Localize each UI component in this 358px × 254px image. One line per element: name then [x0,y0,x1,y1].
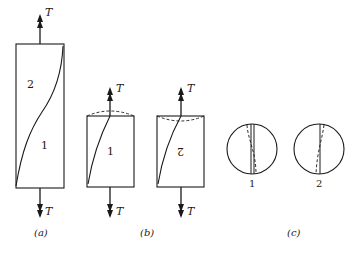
region-label-2: 2 [27,79,34,90]
figure-canvas: T T 2 1 (a) T T 1 T T 2 (b) 1 2 (c) [0,0,358,254]
caption-a: (a) [34,228,48,238]
force-label-b2-top: T [187,83,194,94]
force-label-b1-bottom: T [116,206,123,217]
piece-label-2-inverted: 2 [177,146,184,157]
caption-c: (c) [287,228,300,238]
piece-label-1: 1 [107,146,114,157]
section-label-2: 2 [316,179,322,189]
force-label-a-top: T [45,7,52,18]
region-label-1: 1 [41,140,48,151]
force-label-b1-top: T [116,83,123,94]
diagram-drawing [0,0,358,254]
force-label-a-bottom: T [45,206,52,217]
panel-a-bar [16,14,64,218]
force-label-b2-bottom: T [187,206,194,217]
panel-c-section-2 [294,124,344,174]
caption-b: (b) [140,228,154,238]
section-label-1: 1 [249,179,255,189]
panel-c-section-1 [227,124,277,174]
